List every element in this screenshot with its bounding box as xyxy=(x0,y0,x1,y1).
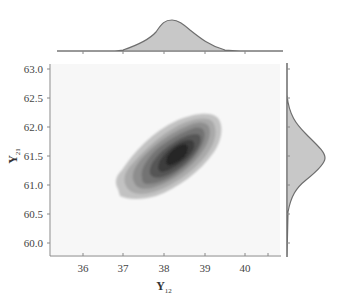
joint-kde-chart: 63.0 62.5 62.0 61.5 61.0 60.5 60.0 Y21 3… xyxy=(0,0,340,300)
right-marginal-density xyxy=(287,63,325,257)
x-axis-title: Y12 xyxy=(156,279,172,295)
y-tick-label: 61.5 xyxy=(24,150,44,162)
y-tick-label: 61.0 xyxy=(24,179,44,191)
svg-text:Y21: Y21 xyxy=(6,148,22,164)
x-tick-label: 38 xyxy=(159,262,171,274)
joint-density-panel xyxy=(50,64,281,256)
y-tick-label: 60.5 xyxy=(24,208,44,220)
y-tick-label: 62.0 xyxy=(24,121,44,133)
x-tick-label: 40 xyxy=(240,262,252,274)
x-tick-label: 39 xyxy=(200,262,212,274)
top-marginal-density xyxy=(57,20,283,54)
y-axis: 63.0 62.5 62.0 61.5 61.0 60.5 60.0 Y21 xyxy=(6,63,50,249)
y-axis-title: Y21 xyxy=(6,148,22,164)
x-tick-label: 37 xyxy=(118,262,130,274)
x-tick-label: 36 xyxy=(78,262,90,274)
y-tick-label: 60.0 xyxy=(24,237,44,249)
x-axis: 36 37 38 39 40 Y12 xyxy=(78,253,269,295)
y-tick-label: 62.5 xyxy=(24,92,44,104)
top-marginal-area xyxy=(57,20,283,51)
y-tick-label: 63.0 xyxy=(24,63,44,75)
right-marginal-area xyxy=(287,63,325,257)
